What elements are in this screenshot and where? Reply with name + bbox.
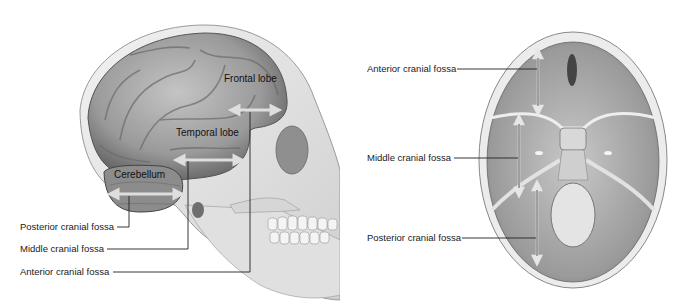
lateral-skull-illustration — [0, 0, 340, 308]
frontal-lobe-label: Frontal lobe — [224, 74, 277, 84]
anterior-cranial-fossa-label-right: Anterior cranial fossa — [367, 64, 456, 74]
middle-cranial-fossa-label-left: Middle cranial fossa — [20, 244, 104, 254]
foramen-magnum — [551, 183, 595, 247]
posterior-cranial-fossa-label-left: Posterior cranial fossa — [20, 222, 114, 232]
posterior-cranial-fossa-label-right: Posterior cranial fossa — [367, 233, 461, 243]
anterior-cranial-fossa-label-left: Anterior cranial fossa — [20, 267, 109, 277]
cerebellum-label: Cerebellum — [114, 170, 165, 180]
lateral-skull-panel: Frontal lobe Temporal lobe Cerebellum Po… — [0, 0, 340, 308]
temporal-lobe-label: Temporal lobe — [176, 128, 239, 138]
orbit — [276, 126, 308, 174]
cranial-base-panel: Anterior cranial fossa Middle cranial fo… — [340, 0, 682, 308]
middle-cranial-fossa-label-right: Middle cranial fossa — [367, 153, 451, 163]
